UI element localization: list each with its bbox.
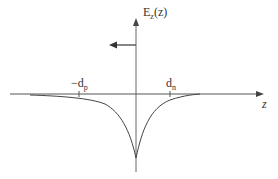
tick-right-label: dn <box>166 76 176 92</box>
field-curve-left <box>30 95 136 158</box>
field-direction-arrowhead <box>109 42 117 49</box>
field-curve-right <box>136 94 200 158</box>
y-axis-label: Ez(z) <box>143 5 167 21</box>
electric-field-diagram: Ez(z) z −dp dn <box>0 0 278 179</box>
tick-left-label: −dp <box>71 76 88 92</box>
e-axis-arrowhead <box>133 18 139 26</box>
x-axis-label: z <box>261 97 267 111</box>
